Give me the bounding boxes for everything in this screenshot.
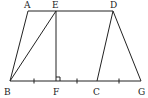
segment-DC: [97, 11, 113, 81]
label-F: F: [53, 87, 59, 97]
label-A: A: [23, 0, 31, 10]
segment-BE: [10, 11, 56, 81]
label-D: D: [110, 0, 117, 10]
geometry-diagram: A E D B F C G: [0, 0, 148, 98]
label-G: G: [138, 87, 145, 97]
label-C: C: [93, 87, 100, 97]
segment-DG: [113, 11, 141, 81]
label-B: B: [4, 87, 11, 97]
segment-AB: [10, 11, 28, 81]
label-E: E: [52, 0, 59, 10]
right-angle-mark: [56, 77, 60, 81]
